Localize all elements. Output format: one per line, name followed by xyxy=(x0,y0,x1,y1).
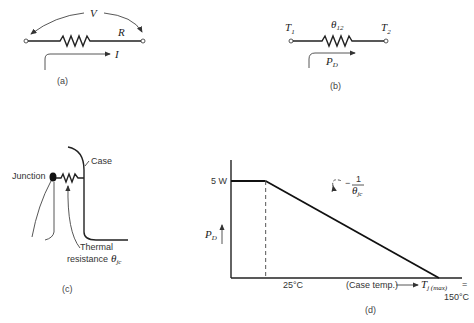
junction-resistor xyxy=(56,174,84,182)
thermal-resistor xyxy=(293,36,384,46)
x-tick-25c: 25°C xyxy=(283,280,304,290)
caption-d: (d) xyxy=(365,305,376,315)
tmax-value: 150°C xyxy=(444,292,470,302)
slope-pointer xyxy=(333,180,342,186)
terminal-1-label: T1 xyxy=(285,21,295,36)
terminal-right xyxy=(141,39,145,43)
lead-left xyxy=(32,181,51,237)
slope-numerator: 1 xyxy=(356,174,361,184)
x-axis-case-temp: (Case temp.) xyxy=(346,280,398,290)
terminal-left xyxy=(24,39,28,43)
caption-c: (c) xyxy=(62,284,73,294)
thermal-resistance-pointer xyxy=(68,186,80,248)
resistor-label: R xyxy=(117,26,125,38)
panel-b: T1 T2 θ12 PD (b) xyxy=(285,18,391,91)
panel-a: V R I (a) xyxy=(24,7,145,86)
y-tick-5w: 5 W xyxy=(211,176,228,186)
junction-dot xyxy=(50,173,57,182)
tmax-label: Tj (max) xyxy=(421,278,448,292)
current-label: I xyxy=(114,48,120,60)
terminal-2-label: T2 xyxy=(381,21,391,36)
power-label: PD xyxy=(325,55,338,69)
thermal-label-line2: resistance xyxy=(67,254,108,264)
tmax-equals: = xyxy=(462,279,467,289)
theta-12-label: θ12 xyxy=(331,18,344,32)
terminal-t2 xyxy=(384,39,388,43)
voltage-arrow-left xyxy=(31,13,84,34)
junction-label: Junction xyxy=(12,171,46,181)
voltage-label: V xyxy=(90,7,98,19)
panel-d: 5 W 25°C PD − 1 θjc (Case temp.) Tj (max… xyxy=(204,160,470,315)
theta-jc-label: θjc xyxy=(111,252,122,266)
current-arrow xyxy=(45,54,110,70)
case-pointer xyxy=(85,161,89,166)
caption-a: (a) xyxy=(57,76,68,86)
y-axis-label: PD xyxy=(204,228,217,242)
slope-prefix: − xyxy=(345,178,350,188)
panel-c: Case Junction Thermal resistance θjc (c) xyxy=(12,147,128,294)
slope-denominator: θjc xyxy=(352,184,363,198)
diagram-canvas: V R I (a) T1 T2 θ12 PD (b) Case Junction… xyxy=(0,0,474,323)
case-label: Case xyxy=(91,156,112,166)
caption-b: (b) xyxy=(330,81,341,91)
derating-series xyxy=(231,181,439,278)
thermal-label-line1: Thermal xyxy=(80,242,113,252)
terminal-t1 xyxy=(289,39,293,43)
